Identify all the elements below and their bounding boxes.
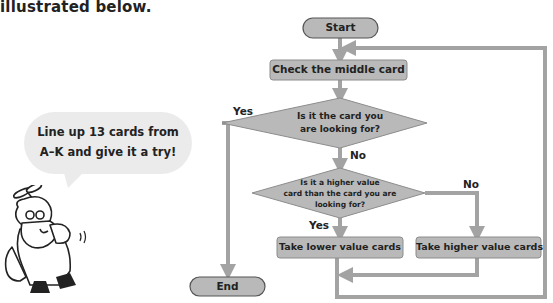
start-label: Start (303, 21, 378, 33)
decision-1-no-label: No (350, 149, 366, 161)
decision-2-text: Is it a higher value card than the card … (270, 177, 410, 210)
flowchart-diagram (0, 0, 553, 303)
decision-1-text: Is it the card you are looking for? (270, 110, 410, 136)
decision-2-line-3: looking for? (270, 199, 410, 210)
take-higher-label: Take higher value cards (416, 241, 541, 252)
decision-2-no-label: No (463, 178, 479, 190)
take-lower-label: Take lower value cards (277, 241, 403, 252)
decision-2-line-2: card than the card you are (270, 188, 410, 199)
end-label: End (190, 280, 265, 292)
decision-1-line-2: are looking for? (270, 123, 410, 136)
decision-1-yes-label: Yes (233, 105, 253, 117)
check-middle-card-label: Check the middle card (270, 63, 407, 75)
decision-2-line-1: Is it a higher value (270, 177, 410, 188)
decision-1-line-1: Is it the card you (270, 110, 410, 123)
decision-2-yes-label: Yes (309, 219, 329, 231)
